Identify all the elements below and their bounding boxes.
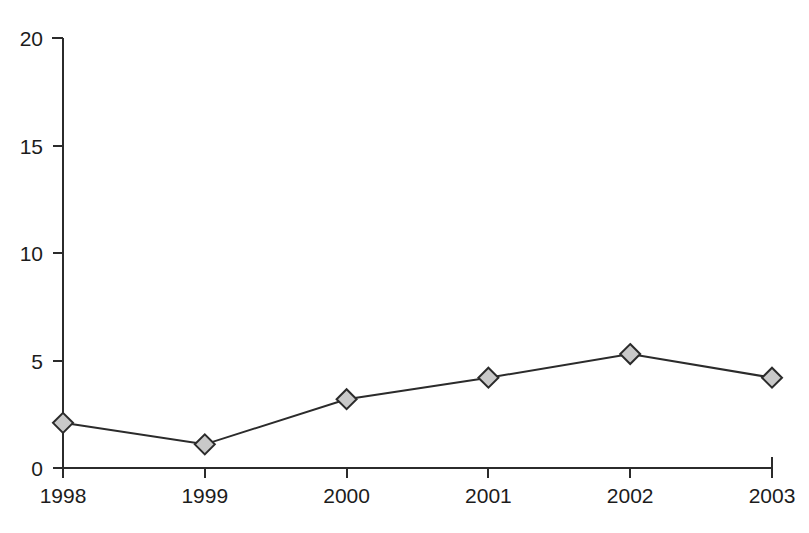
y-tick-group: 05101520 [20,27,63,480]
y-tick-label: 0 [31,457,43,480]
data-point-marker [762,368,782,388]
x-tick-label: 2002 [607,484,654,507]
chart-canvas: 05101520 199819992000200120022003 [0,0,809,533]
x-tick-label: 2001 [465,484,512,507]
x-tick-label: 2000 [323,484,370,507]
y-tick-label: 15 [20,135,43,158]
data-point-marker [53,413,73,433]
y-tick-label: 5 [31,350,43,373]
data-point-marker [620,344,640,364]
data-point-marker [337,389,357,409]
y-tick-label: 20 [20,27,43,50]
x-tick-label: 2003 [749,484,796,507]
data-point-marker [195,434,215,454]
x-tick-group: 199819992000200120022003 [40,468,796,507]
series-line [63,354,772,444]
y-tick-label: 10 [20,242,43,265]
series-group [63,354,772,444]
data-point-marker [478,368,498,388]
x-tick-label: 1998 [40,484,87,507]
line-chart: 05101520 199819992000200120022003 [0,0,809,533]
chart-axes [52,38,772,468]
x-tick-label: 1999 [181,484,228,507]
